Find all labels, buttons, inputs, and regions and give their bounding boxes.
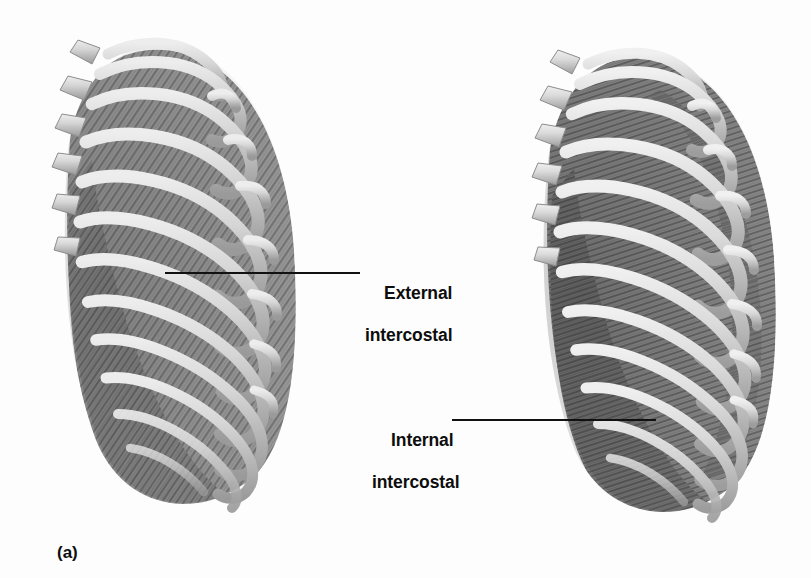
panel-caption: (a) <box>57 543 78 563</box>
anatomy-figure: External intercostal Internal intercosta… <box>0 0 811 578</box>
label-internal-intercostal: Internal intercostal <box>372 409 459 535</box>
label-internal-intercostal-line1: Internal <box>391 430 453 450</box>
label-external-intercostal-line1: External <box>384 283 452 303</box>
label-external-intercostal: External intercostal <box>365 262 452 388</box>
label-external-intercostal-line2: intercostal <box>365 325 452 346</box>
label-internal-intercostal-line2: intercostal <box>372 472 459 493</box>
